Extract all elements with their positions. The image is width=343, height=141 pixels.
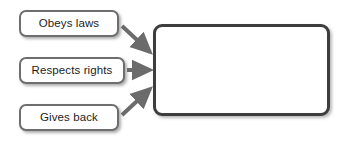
node-obeys-laws[interactable]: Obeys laws: [19, 10, 119, 37]
node-respects-rights[interactable]: Respects rights: [19, 57, 125, 84]
diagram-canvas: Obeys laws Respects rights Gives back: [0, 0, 343, 141]
arrow-obeys-laws-to-target: [122, 26, 150, 52]
node-target-empty-box[interactable]: [153, 24, 330, 116]
node-obeys-laws-label: Obeys laws: [39, 18, 99, 30]
node-gives-back[interactable]: Gives back: [19, 104, 119, 131]
arrow-gives-back-to-target: [122, 89, 150, 115]
node-gives-back-label: Gives back: [40, 112, 98, 124]
node-respects-rights-label: Respects rights: [32, 65, 113, 77]
